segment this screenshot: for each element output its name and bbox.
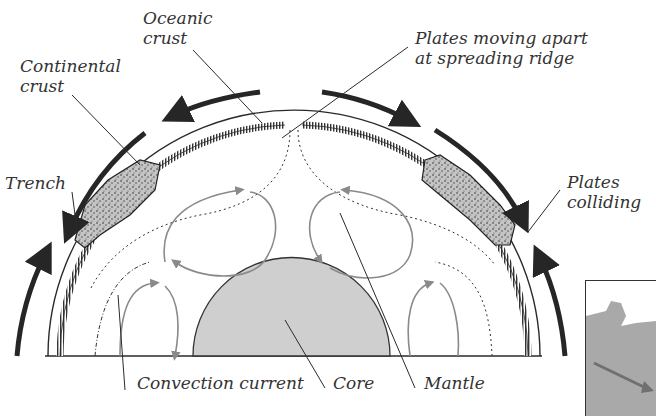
label-mantle: Mantle	[424, 373, 485, 393]
label-oceanic-crust: Oceanic crust	[143, 8, 213, 48]
label-trench: Trench	[5, 173, 66, 193]
continental-crust-left	[75, 160, 160, 248]
label-continental-crust: Continental crust	[20, 56, 121, 96]
label-plates-colliding: Plates colliding	[567, 172, 641, 212]
label-core: Core	[333, 373, 374, 393]
label-convection-current: Convection current	[137, 373, 304, 393]
label-plates-moving-apart: Plates moving apart at spreading ridge	[415, 28, 588, 68]
core	[193, 258, 390, 357]
continental-crust-right	[422, 155, 515, 245]
inset-landmass	[586, 301, 656, 416]
inset-map-fragment	[585, 280, 656, 416]
